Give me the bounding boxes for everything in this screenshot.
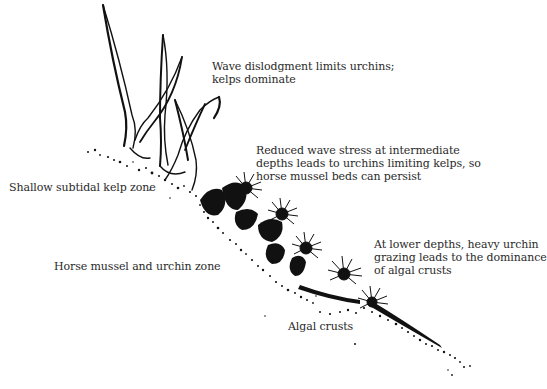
annotation-line: depths leads to urchins limiting kelps, … <box>256 157 481 170</box>
zone-label-text: Horse mussel and urchin zone <box>54 260 221 273</box>
zone-label-text: Shallow subtidal kelp zone <box>9 181 156 194</box>
annotation-line: kelps dominate <box>212 73 394 86</box>
annotation-lower-depths: At lower depths, heavy urchin grazing le… <box>374 238 547 277</box>
annotation-intermediate-depths: Reduced wave stress at intermediate dept… <box>256 144 481 183</box>
annotation-wave-dislodgment: Wave dislodgment limits urchins; kelps d… <box>212 60 394 86</box>
urchin-4 <box>328 256 362 284</box>
urchin-3 <box>292 232 322 258</box>
annotation-line: At lower depths, heavy urchin <box>374 238 547 251</box>
annotation-line: Reduced wave stress at intermediate <box>256 144 481 157</box>
annotation-line: horse mussel beds can persist <box>256 170 481 183</box>
zone-label-algal-crusts: Algal crusts <box>288 320 353 333</box>
zone-label-text: Algal crusts <box>288 320 353 333</box>
annotation-line: of algal crusts <box>374 264 547 277</box>
urchin-5 <box>358 286 388 312</box>
zone-label-mussel-urchin: Horse mussel and urchin zone <box>54 260 221 273</box>
annotation-line: grazing leads to the dominance <box>374 251 547 264</box>
annotation-line: Wave dislodgment limits urchins; <box>212 60 394 73</box>
zone-label-kelp: Shallow subtidal kelp zone <box>9 181 156 194</box>
